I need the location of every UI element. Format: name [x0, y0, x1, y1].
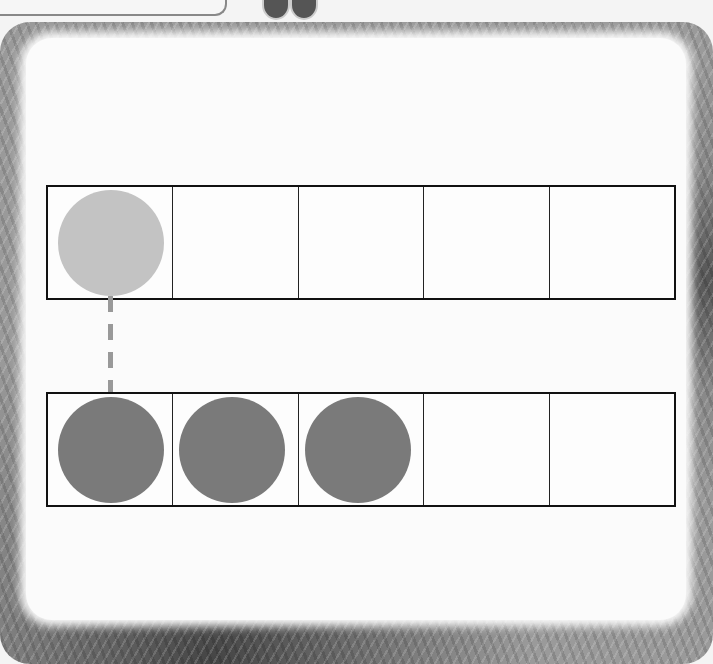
dark-counter	[305, 397, 411, 503]
bottom-five-frame	[46, 392, 676, 507]
bottom-cell-1	[48, 394, 173, 505]
dashed-connector-line	[108, 296, 113, 400]
top-cell-2	[173, 187, 298, 298]
dark-counter	[179, 397, 285, 503]
leaf-icon	[290, 0, 318, 20]
leaf-icon	[262, 0, 290, 20]
header-tab-shape	[0, 0, 227, 16]
bottom-cell-3	[299, 394, 424, 505]
top-five-frame	[46, 185, 676, 300]
bottom-cell-2	[173, 394, 298, 505]
top-cell-1	[48, 187, 173, 298]
bottom-cell-5	[550, 394, 674, 505]
top-cell-5	[550, 187, 674, 298]
top-cell-4	[424, 187, 549, 298]
light-counter	[58, 190, 164, 296]
content-panel	[26, 38, 686, 620]
dark-counter	[58, 397, 164, 503]
bottom-cell-4	[424, 394, 549, 505]
top-cell-3	[299, 187, 424, 298]
